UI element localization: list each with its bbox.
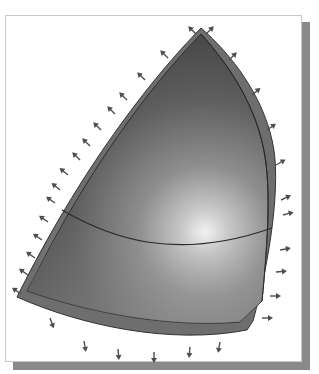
shell-model[interactable]	[0, 0, 319, 374]
